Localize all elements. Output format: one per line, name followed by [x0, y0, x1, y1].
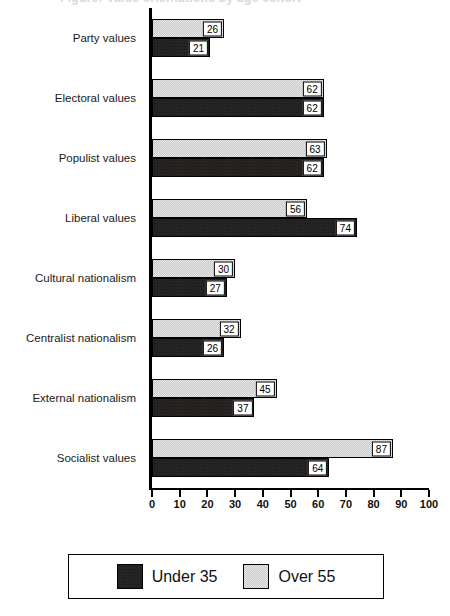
- x-tick-label: 10: [174, 498, 186, 510]
- bar-value-label: 62: [303, 81, 322, 96]
- category-label: External nationalism: [0, 392, 136, 404]
- bar-over-55: [152, 139, 327, 158]
- x-tick-label: 0: [149, 498, 155, 510]
- bar-value-label: 87: [372, 441, 391, 456]
- bar-under-35: [152, 98, 324, 117]
- x-tick-mark: [428, 490, 430, 497]
- x-tick-mark: [206, 490, 208, 497]
- category-label: Populist values: [0, 152, 136, 164]
- bar-value-label: 21: [189, 40, 208, 55]
- chart-plot-area: Party valuesElectoral valuesPopulist val…: [0, 8, 450, 513]
- x-tick-label: 40: [257, 498, 269, 510]
- category-label: Centralist nationalism: [0, 332, 136, 344]
- bar-group: 4537: [152, 368, 429, 428]
- x-tick-mark: [151, 490, 153, 497]
- bar-value-label: 62: [303, 100, 322, 115]
- clipped-title-strip: Figure: Value orientations by age cohort: [0, 0, 450, 8]
- bar-value-label: 32: [220, 321, 239, 336]
- bar-group: 6362: [152, 128, 429, 188]
- light-swatch-icon: [243, 564, 269, 589]
- legend-label: Under 35: [152, 568, 218, 586]
- bar-value-label: 64: [308, 460, 327, 475]
- bar-value-label: 62: [303, 160, 322, 175]
- x-tick-label: 20: [201, 498, 213, 510]
- category-label: Liberal values: [0, 212, 136, 224]
- bar-value-label: 30: [214, 261, 233, 276]
- x-tick-mark: [262, 490, 264, 497]
- category-axis-labels: Party valuesElectoral valuesPopulist val…: [0, 8, 144, 488]
- bar-over-55: [152, 199, 307, 218]
- category-label: Socialist values: [0, 452, 136, 464]
- category-label: Cultural nationalism: [0, 272, 136, 284]
- x-tick-label: 50: [284, 498, 296, 510]
- x-tick-mark: [345, 490, 347, 497]
- bar-value-label: 74: [336, 220, 355, 235]
- bar-value-label: 45: [256, 381, 275, 396]
- x-tick-label: 100: [420, 498, 438, 510]
- bar-under-35: [152, 218, 357, 237]
- legend-entry[interactable]: Over 55: [243, 564, 335, 589]
- x-tick-label: 60: [312, 498, 324, 510]
- bar-under-35: [152, 158, 324, 177]
- bar-group: 3226: [152, 308, 429, 368]
- x-tick-mark: [400, 490, 402, 497]
- bar-value-label: 26: [203, 340, 222, 355]
- bar-value-label: 26: [203, 21, 222, 36]
- bar-value-label: 37: [233, 400, 252, 415]
- bar-value-label: 56: [286, 201, 305, 216]
- x-tick-mark: [290, 490, 292, 497]
- x-tick-mark: [179, 490, 181, 497]
- chart-title-clipped: Figure: Value orientations by age cohort: [60, 0, 301, 5]
- bar-group: 6262: [152, 68, 429, 128]
- bar-under-35: [152, 458, 329, 477]
- legend-label: Over 55: [278, 568, 335, 586]
- bar-over-55: [152, 439, 393, 458]
- bar-value-label: 27: [206, 280, 225, 295]
- x-tick-mark: [373, 490, 375, 497]
- legend-entry[interactable]: Under 35: [117, 564, 218, 589]
- x-tick-label: 80: [367, 498, 379, 510]
- x-tick-mark: [317, 490, 319, 497]
- category-label: Party values: [0, 32, 136, 44]
- bars-container: 26216262636256743027322645378764: [152, 8, 429, 488]
- chart-legend: Under 35Over 55: [68, 554, 384, 599]
- x-tick-label: 90: [395, 498, 407, 510]
- x-axis-ticks: 0102030405060708090100: [152, 490, 429, 514]
- bar-value-label: 63: [305, 141, 324, 156]
- dark-swatch-icon: [117, 564, 143, 589]
- bar-group: 2621: [152, 8, 429, 68]
- bar-group: 8764: [152, 428, 429, 488]
- category-label: Electoral values: [0, 92, 136, 104]
- x-tick-label: 30: [229, 498, 241, 510]
- bar-group: 5674: [152, 188, 429, 248]
- bar-over-55: [152, 79, 324, 98]
- x-tick-mark: [234, 490, 236, 497]
- x-tick-label: 70: [340, 498, 352, 510]
- bar-group: 3027: [152, 248, 429, 308]
